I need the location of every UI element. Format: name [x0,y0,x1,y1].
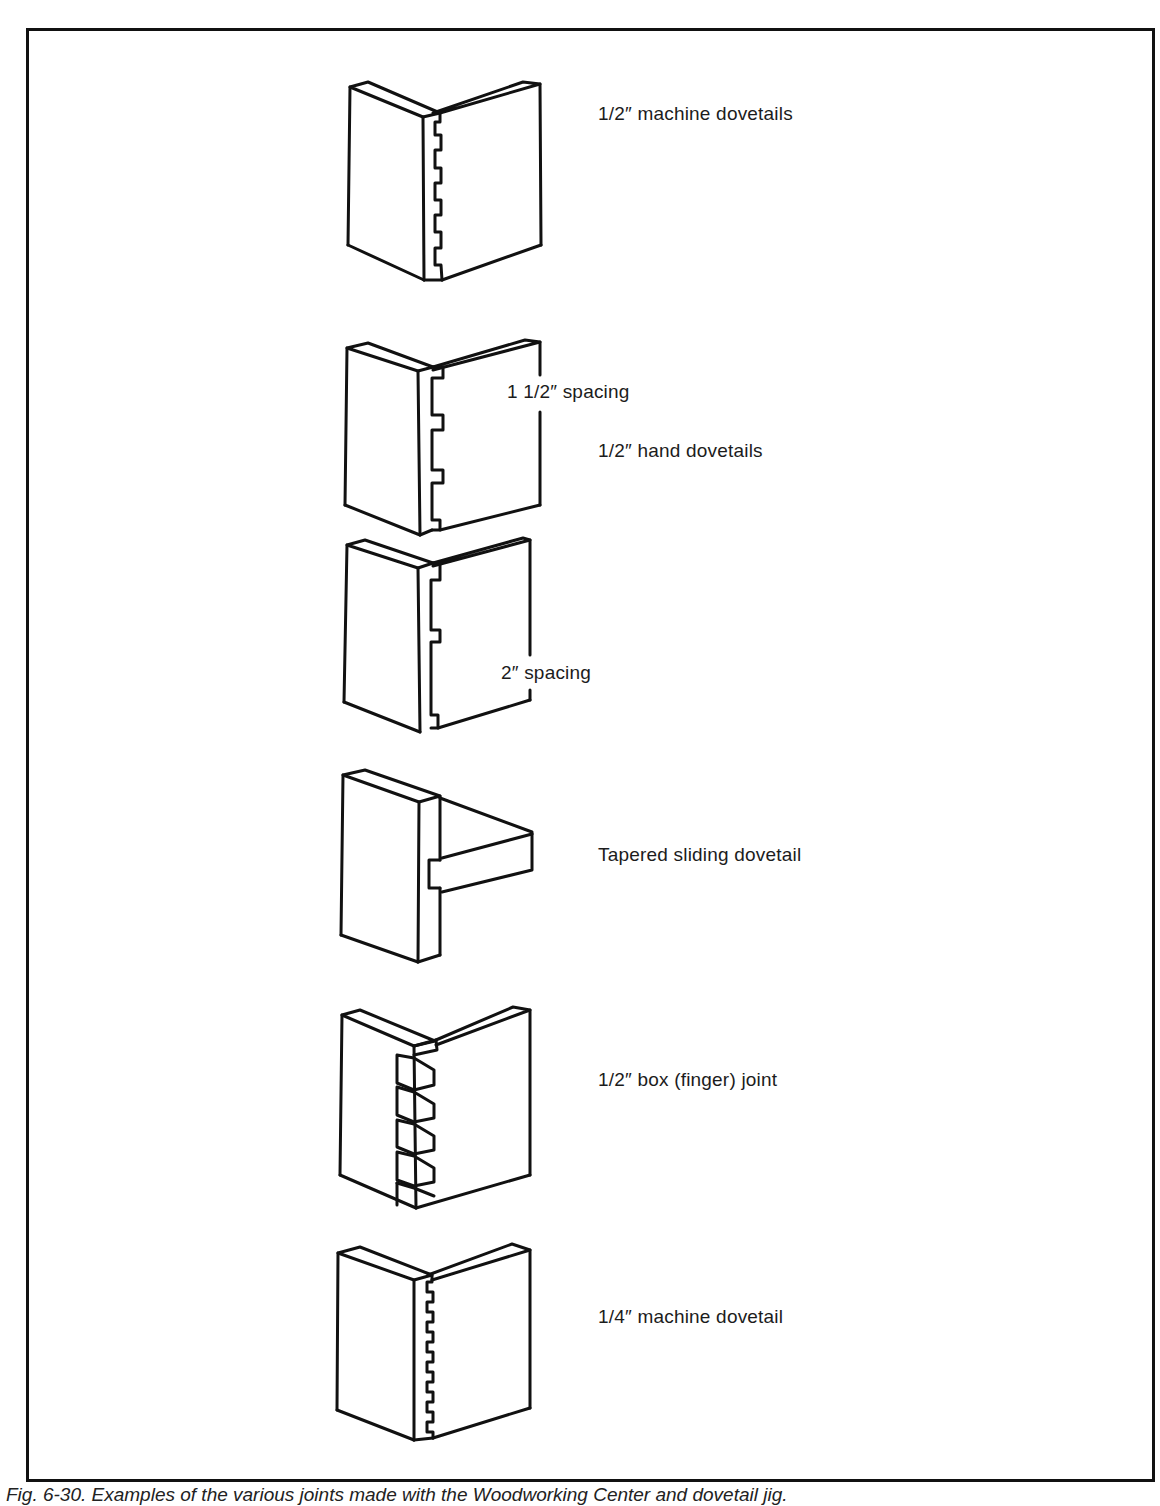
annotation-1-5-spacing: 1 1/2″ spacing [507,381,630,403]
label-tapered-sliding-dovetail: Tapered sliding dovetail [598,844,801,866]
hand-dovetail-2-drawing [344,538,530,732]
box-joint-drawing [340,1007,530,1208]
label-quarter-machine-dovetail: 1/4″ machine dovetail [598,1306,783,1328]
sliding-dovetail-drawing [341,770,532,962]
hand-dovetail-1-5-drawing [345,340,540,535]
annotation-2-spacing: 2″ spacing [501,662,591,684]
figure-caption: Fig. 6-30. Examples of the various joint… [6,1484,788,1506]
quarter-machine-dovetail-drawing [337,1244,530,1440]
label-box-joint: 1/2″ box (finger) joint [598,1069,777,1091]
label-machine-dovetails: 1/2″ machine dovetails [598,103,793,125]
label-hand-dovetails: 1/2″ hand dovetails [598,440,763,462]
machine-dovetail-drawing [348,82,541,280]
